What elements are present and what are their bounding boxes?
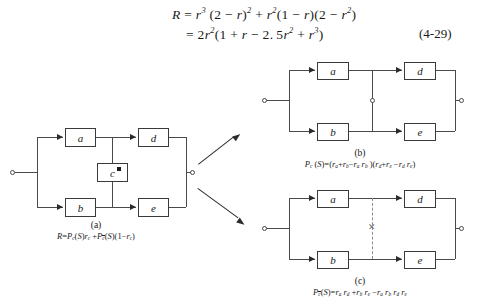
figure-a-arrow-into-d	[130, 134, 136, 140]
figure-c-bridge-open: a d b e ✕	[262, 190, 462, 270]
textbook-page: R = r3 (2 − r)2 + r2(1 − r)(2 − r2) = 2r…	[0, 0, 495, 304]
figure-c-input-bus	[289, 198, 290, 259]
figure-c-block-d-label: d	[417, 193, 423, 205]
figure-a-block-d: d	[138, 128, 169, 147]
figure-a-bridge-wire-upper	[112, 137, 113, 163]
figure-a-block-b: b	[65, 198, 96, 217]
figure-c-right-terminal	[459, 226, 464, 231]
figure-b-block-a-label: a	[330, 65, 336, 77]
figure-a-block-a: a	[65, 128, 96, 147]
figure-a-bridge-network: a d b e c	[8, 128, 193, 220]
figure-c-arrow-into-b	[309, 256, 315, 262]
figure-a-block-c-marker	[117, 167, 121, 171]
figure-b-formula: Pc (S)=(ra+rb−ra rb )(rd+re −rd re)	[265, 159, 455, 169]
figure-b-block-e-label: e	[418, 126, 423, 138]
figure-a-block-e: e	[138, 198, 169, 217]
figure-c-block-d: d	[404, 190, 436, 208]
figure-b-input-bus	[289, 70, 290, 131]
figure-b-wire-b-to-e	[349, 131, 402, 132]
connector-arrow-b-head	[232, 132, 242, 142]
figure-a-arrow-into-e	[130, 204, 136, 210]
figure-c-arrow-into-a	[309, 195, 315, 201]
figure-c-block-a-label: a	[330, 193, 336, 205]
figure-b-arrow-into-d	[396, 67, 402, 73]
figure-a-wire-d-to-out	[169, 137, 186, 138]
connector-arrow-c-head	[236, 218, 246, 228]
figure-a-label: (a)	[66, 220, 126, 230]
equation-number: (4-29)	[419, 26, 452, 42]
figure-a-block-c-label: c	[110, 167, 115, 179]
figure-b-wire-a-to-d	[349, 70, 402, 71]
figure-a-block-a-label: a	[78, 132, 84, 144]
equation-line-2: = 2r2(1 + r − 2. 5r2 + r3)	[186, 26, 324, 43]
figure-a-formula: R=Pc(S)rc +Pc(S)(1−rc)	[26, 231, 166, 241]
figure-b-bridge-shorted: a d b e	[262, 62, 462, 142]
figure-b-block-a: a	[317, 62, 349, 80]
figure-c-block-b-label: b	[330, 254, 336, 266]
figure-c-arrow-into-e	[396, 256, 402, 262]
equation-line-1: R = r3 (2 − r)2 + r2(1 − r)(2 − r2)	[172, 6, 356, 23]
figure-b-arrow-into-a	[309, 67, 315, 73]
figure-b-wire-e-to-out	[436, 131, 455, 132]
figure-b-block-e: e	[404, 123, 436, 141]
figure-c-wire-b-to-e	[349, 259, 402, 260]
figure-a-bridge-wire-lower	[112, 182, 113, 207]
connector-arrow-b-shaft	[198, 136, 235, 165]
figure-a-arrow-into-a	[57, 134, 63, 140]
figure-c-label: (c)	[330, 276, 390, 286]
connector-arrow-to-figure-b	[198, 128, 258, 168]
figure-c-arrow-into-d	[396, 195, 402, 201]
figure-b-arrow-into-e	[396, 128, 402, 134]
figure-c-block-a: a	[317, 190, 349, 208]
figure-b-wire-d-to-out	[436, 70, 455, 71]
figure-a-block-e-label: e	[151, 202, 156, 214]
figure-b-short-node	[370, 98, 375, 103]
figure-c-input-wire	[267, 228, 289, 229]
figure-a-block-c: c	[97, 163, 128, 182]
figure-b-label: (b)	[330, 148, 390, 158]
figure-a-wire-e-to-out	[169, 207, 186, 208]
figure-b-block-b: b	[317, 123, 349, 141]
figure-a-block-b-label: b	[78, 202, 84, 214]
figure-c-wire-a-to-d	[349, 198, 402, 199]
figure-a-input-bus	[37, 137, 38, 207]
figure-c-open-bridge-x-icon: ✕	[368, 222, 376, 232]
connector-arrow-to-figure-c	[198, 186, 258, 230]
figure-b-arrow-into-b	[309, 128, 315, 134]
figure-c-wire-e-to-out	[436, 259, 455, 260]
figure-a-right-terminal	[190, 170, 195, 175]
figure-c-wire-d-to-out	[436, 198, 455, 199]
figure-b-block-b-label: b	[330, 126, 336, 138]
figure-c-block-b: b	[317, 251, 349, 269]
figure-c-block-e: e	[404, 251, 436, 269]
figure-b-block-d-label: d	[417, 65, 423, 77]
figure-b-block-d: d	[404, 62, 436, 80]
figure-a-arrow-into-b	[57, 204, 63, 210]
figure-a-input-wire	[15, 172, 37, 173]
figure-c-formula: Pc(S)=ra rd +rb re −ra rb rd re	[275, 287, 445, 297]
figure-b-input-wire	[267, 100, 289, 101]
connector-arrow-c-shaft	[197, 188, 238, 218]
figure-a-block-d-label: d	[151, 132, 157, 144]
figure-c-block-e-label: e	[418, 254, 423, 266]
figure-b-right-terminal	[459, 98, 464, 103]
